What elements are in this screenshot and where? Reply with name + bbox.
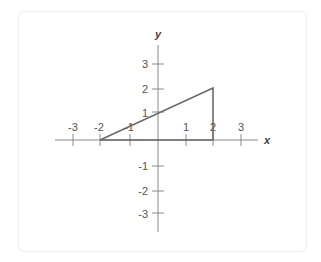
x-tick-label: 1	[183, 121, 189, 133]
x-tick-label: 2	[210, 121, 216, 133]
triangle-shape	[100, 88, 213, 140]
coordinate-plane: -3 -2 -1 1 2 3 3 2 1 -1 -2 -3 x y	[0, 0, 321, 262]
y-tick-label: -3	[138, 208, 148, 220]
y-axis-label: y	[154, 28, 162, 40]
x-tick-label: -2	[94, 121, 104, 133]
x-axis-label: x	[263, 134, 271, 146]
x-tick-label: -1	[124, 121, 134, 133]
y-tick-label: 3	[142, 58, 148, 70]
y-tick-label: -1	[138, 160, 148, 172]
x-tick-label: -3	[68, 121, 78, 133]
y-tick-label: 1	[142, 107, 148, 119]
y-tick-label: 2	[142, 83, 148, 95]
y-tick-label: -2	[138, 185, 148, 197]
x-tick-label: 3	[238, 121, 244, 133]
